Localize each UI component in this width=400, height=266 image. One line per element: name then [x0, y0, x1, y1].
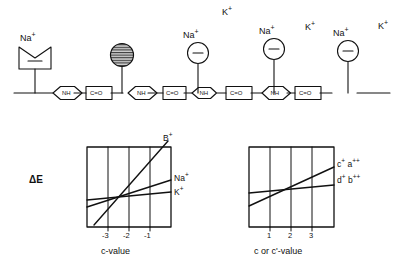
right-chart-label-top: c+ a++: [337, 158, 360, 168]
hatched-sphere-site-2: [111, 44, 134, 67]
figure-canvas: Na+ Na+ Na+ Na+ K+ K+ K+ NH NH NH NH C=O…: [0, 0, 400, 266]
left-chart-xlabel: c-value: [101, 247, 130, 256]
left-chart-label-na: Na+: [174, 172, 189, 182]
left-chart-xtick-3: -1: [144, 232, 151, 240]
left-chart-ylabel: ΔE: [29, 175, 43, 185]
group-label-co-4: C=O: [299, 90, 312, 96]
circle-anion-site-4: [264, 39, 285, 60]
group-label-co-3: C=O: [230, 90, 243, 96]
circle-anion-site-5: [338, 41, 359, 62]
left-chart-label-b: B+: [163, 132, 172, 142]
group-label-co-1: C=O: [90, 90, 103, 96]
ion-label-k-3: K+: [378, 19, 388, 31]
group-label-nh-1: NH: [62, 90, 71, 96]
right-chart-xtick-1: 1: [267, 232, 271, 240]
group-label-nh-3: NH: [200, 90, 209, 96]
cup-anion-site-1: [19, 47, 51, 69]
group-label-co-2: C=O: [166, 90, 179, 96]
ion-label-na-1: Na+: [20, 31, 36, 43]
left-chart-xtick-1: -3: [102, 232, 109, 240]
left-chart-gridlines: [108, 147, 150, 227]
ion-label-na-3: Na+: [259, 24, 275, 36]
right-chart-label-bottom: d+ b++: [337, 174, 360, 184]
diagram-vector-layer: [0, 0, 400, 266]
ion-label-k-1: K+: [222, 5, 232, 17]
right-chart-xtick-2: 2: [288, 232, 292, 240]
left-chart-xtick-2: -2: [123, 232, 130, 240]
left-chart-label-k: K+: [174, 186, 183, 196]
right-chart-xtick-3: 3: [309, 232, 313, 240]
group-label-nh-2: NH: [137, 90, 146, 96]
circle-anion-site-3: [188, 43, 209, 64]
left-chart-series-b: [94, 141, 168, 225]
ion-label-na-4: Na+: [333, 26, 349, 38]
ion-label-na-2: Na+: [183, 28, 199, 40]
ion-label-k-2: K+: [305, 20, 315, 32]
group-label-nh-4: NH: [271, 90, 280, 96]
right-chart-xlabel: c or c'-value: [254, 247, 302, 256]
